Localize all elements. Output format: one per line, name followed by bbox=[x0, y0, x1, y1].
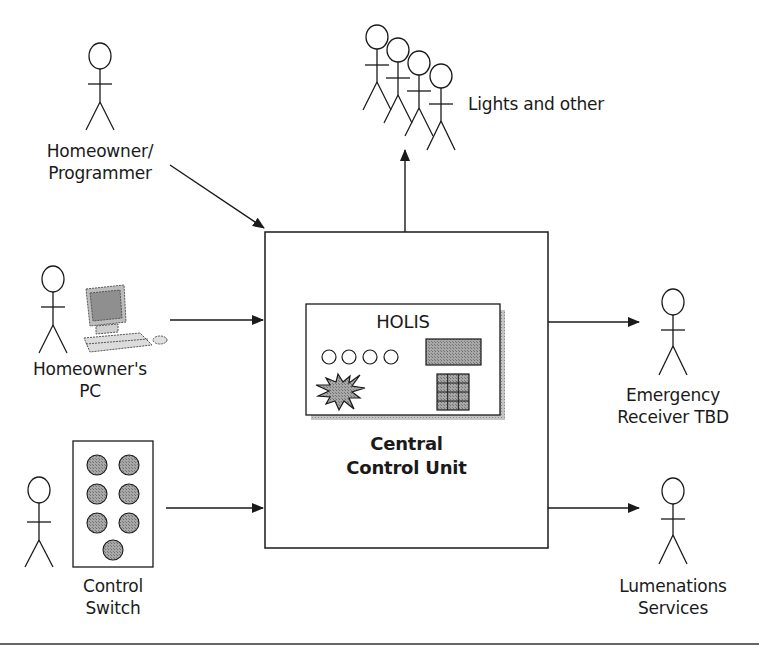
label-homeowners-pc: Homeowner's PC bbox=[20, 358, 160, 402]
actor-figure-lumenations-services bbox=[659, 478, 687, 564]
label-emergency-receiver: Emergency Receiver TBD bbox=[603, 384, 743, 428]
label-lights-and-other: Lights and other bbox=[468, 93, 604, 115]
control-switch-panel bbox=[73, 441, 153, 567]
actor-figure-homeowners-pc bbox=[39, 266, 67, 353]
label-central-control-unit: Central Control Unit bbox=[265, 432, 548, 480]
actor-figure-homeowner-programmer bbox=[86, 43, 114, 130]
keypad-icon bbox=[437, 374, 469, 410]
display-screen-icon bbox=[426, 339, 481, 365]
actor-figure-group-lights bbox=[363, 25, 455, 150]
computer-icon bbox=[84, 285, 167, 352]
label-homeowner-programmer: Homeowner/ Programmer bbox=[20, 140, 180, 184]
actor-figure-control-switch-user bbox=[25, 477, 53, 567]
label-lumenations-services: Lumenations Services bbox=[603, 575, 743, 619]
actor-figure-emergency-receiver bbox=[659, 289, 687, 375]
label-holis: HOLIS bbox=[306, 311, 500, 333]
label-control-switch: Control Switch bbox=[53, 575, 173, 619]
arrow-programmer-to-ccu bbox=[170, 165, 264, 228]
